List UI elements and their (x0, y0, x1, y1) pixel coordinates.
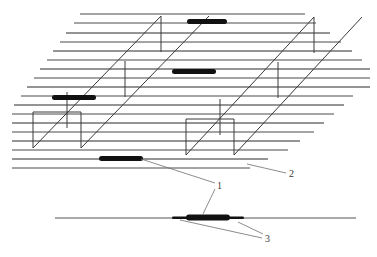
figure-canvas: 1 2 3 (0, 0, 377, 257)
detail-left-segment (172, 217, 188, 220)
channel-left (33, 16, 209, 148)
bar-top (187, 19, 227, 24)
lined-surface-region (12, 14, 370, 168)
bar-middle (172, 69, 216, 74)
leader-label-1-to-detail (203, 189, 215, 214)
bar-lower (99, 156, 143, 161)
technical-figure: 1 2 3 (0, 0, 377, 257)
leader-to-label-2 (247, 164, 286, 173)
detail-center-bar (186, 215, 230, 221)
label-2: 2 (289, 168, 294, 179)
detail-right-segment (228, 217, 244, 220)
bar-left (52, 95, 96, 100)
label-3: 3 (265, 233, 270, 244)
leader-to-label-3-b (238, 222, 263, 234)
cross-section-detail (55, 215, 356, 221)
leader-to-label-1 (141, 159, 215, 183)
leader-lines (141, 159, 286, 238)
leader-to-label-3-a (180, 220, 262, 238)
label-1: 1 (217, 180, 222, 191)
channel-right (186, 17, 362, 155)
